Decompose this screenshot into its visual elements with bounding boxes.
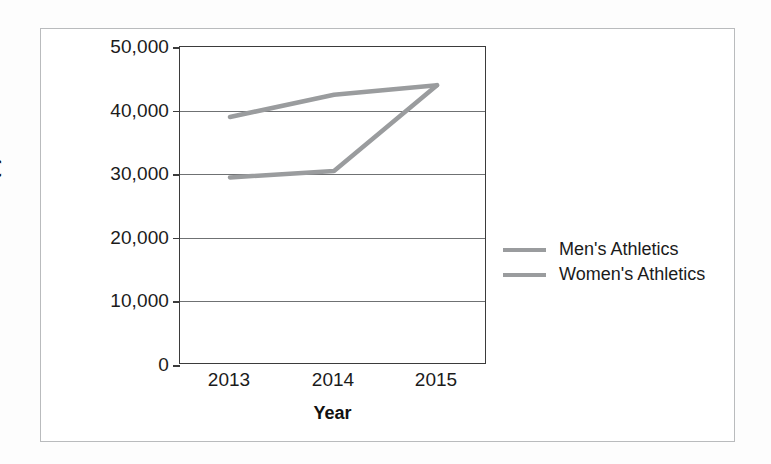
y-axis-label-50000: 50,000: [110, 36, 169, 58]
y-tick-50000: [173, 47, 180, 49]
legend-item-mens-athletics: Men's Athletics: [503, 237, 718, 262]
y-axis-label-10000: 10,000: [110, 290, 169, 312]
legend-label-womens-athletics: Women's Athletics: [559, 264, 705, 285]
x-axis-label-2015: 2015: [415, 369, 457, 391]
y-axis-label-40000: 40,000: [110, 100, 169, 122]
y-axis-title: Amount ($): [0, 46, 3, 364]
x-axis-label-2013: 2013: [208, 369, 250, 391]
y-tick-30000: [173, 174, 180, 176]
y-tick-10000: [173, 301, 180, 303]
series-lines: [180, 47, 487, 365]
legend-item-womens-athletics: Women's Athletics: [503, 262, 718, 287]
x-axis-label-2014: 2014: [312, 369, 354, 391]
y-axis-label-0: 0: [158, 354, 169, 376]
legend-label-mens-athletics: Men's Athletics: [559, 239, 679, 260]
legend-swatch-icon-mens-athletics: [503, 248, 546, 252]
y-tick-0: [173, 365, 180, 367]
y-axis-label-20000: 20,000: [110, 227, 169, 249]
y-tick-40000: [173, 111, 180, 113]
plot-area: 50,000 40,000 30,000 20,000 10,000 0: [179, 46, 486, 364]
y-axis-label-30000: 30,000: [110, 163, 169, 185]
x-axis-title: Year: [179, 403, 486, 424]
y-tick-20000: [173, 238, 180, 240]
series-line-womens-athletics: [230, 85, 437, 177]
legend-swatch-icon-womens-athletics: [503, 273, 546, 277]
chart-legend: Men's Athletics Women's Athletics: [503, 237, 718, 287]
line-chart: Amount ($) 50,000 40,000 30,000 20,000 1…: [41, 29, 734, 441]
figure-frame: Amount ($) 50,000 40,000 30,000 20,000 1…: [40, 28, 735, 442]
